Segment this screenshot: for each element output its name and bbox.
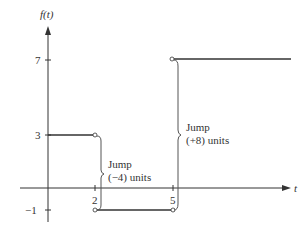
y-tick-label-3: 3 (35, 129, 41, 141)
jump-1-label-line1: Jump (108, 158, 132, 170)
y-tick-label-7: 7 (35, 54, 41, 66)
x-axis-arrow-icon (282, 185, 291, 191)
y-axis-label: f(t) (40, 8, 54, 21)
jump-1-label-line2: (−4) units (108, 171, 151, 184)
jump-brace-1 (97, 136, 104, 210)
x-tick-label-5: 5 (170, 194, 176, 206)
open-dot-1 (93, 133, 97, 137)
x-tick-label-2: 2 (92, 194, 98, 206)
x-axis-label: t (294, 182, 298, 194)
open-dot-2 (93, 208, 97, 212)
jump-2-label-line2: (+8) units (186, 134, 229, 147)
y-tick-label-minus1: −1 (25, 204, 37, 216)
jump-2-label-line1: Jump (186, 121, 210, 133)
step-function-chart: f(t) t 7 3 −1 2 5 Jump (−4) units Jump (… (0, 0, 302, 229)
y-axis-arrow-icon (45, 26, 51, 35)
open-dot-4 (170, 57, 174, 61)
